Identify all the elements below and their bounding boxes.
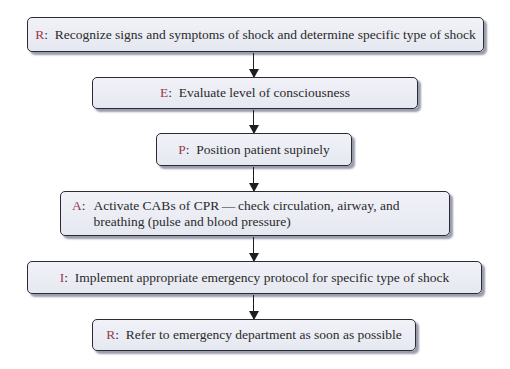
step-text: Activate CABs of CPR — check circulation… bbox=[94, 198, 439, 230]
step-text: Refer to emergency department as soon as… bbox=[126, 327, 402, 343]
step-text: Recognize signs and symptoms of shock an… bbox=[55, 27, 476, 43]
step-content: A:Activate CABs of CPR — check circulati… bbox=[72, 198, 439, 230]
step-letter: E bbox=[160, 85, 168, 101]
step-separator: : bbox=[44, 27, 48, 43]
step-letter: R bbox=[35, 27, 44, 43]
step-evaluate-box: E: Evaluate level of consciousness bbox=[92, 77, 418, 109]
step-text: Position patient supinely bbox=[196, 142, 330, 158]
step-separator: : bbox=[115, 327, 119, 343]
arrow-down-icon bbox=[253, 295, 254, 319]
step-recognize-box: R: Recognize signs and symptoms of shock… bbox=[27, 17, 484, 52]
step-letter: R bbox=[106, 327, 115, 343]
step-separator: : bbox=[186, 142, 190, 158]
step-letter: A bbox=[72, 198, 82, 214]
step-separator: : bbox=[64, 270, 68, 286]
step-text: Implement appropriate emergency protocol… bbox=[75, 270, 450, 286]
step-activate-box: A:Activate CABs of CPR — check circulati… bbox=[60, 191, 450, 236]
arrow-down-icon bbox=[253, 53, 254, 77]
step-text: Evaluate level of consciousness bbox=[179, 85, 350, 101]
step-position-box: P: Position patient supinely bbox=[156, 133, 352, 166]
step-refer-box: R: Refer to emergency department as soon… bbox=[92, 319, 416, 351]
arrow-down-icon bbox=[253, 167, 254, 191]
step-separator: : bbox=[168, 85, 172, 101]
step-separator: : bbox=[82, 198, 86, 214]
arrow-down-icon bbox=[253, 110, 254, 133]
step-implement-box: I: Implement appropriate emergency proto… bbox=[27, 261, 482, 294]
step-letter: P bbox=[178, 142, 186, 158]
arrow-down-icon bbox=[253, 237, 254, 261]
